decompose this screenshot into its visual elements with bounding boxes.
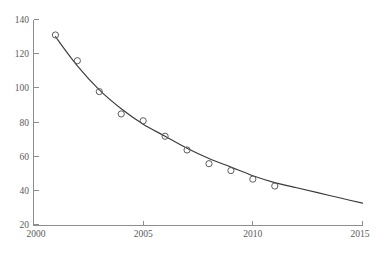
figure-caption <box>0 250 386 258</box>
y-tick-label: 120 <box>15 49 30 59</box>
data-point-marker <box>118 111 124 117</box>
data-point-marker <box>74 58 80 64</box>
scatter-plot: 140 120 100 80 60 40 20 2000 2005 2010 2… <box>0 0 386 258</box>
x-tick-label: 2015 <box>351 229 370 239</box>
fitted-curve <box>55 37 362 204</box>
data-point-marker <box>206 161 212 167</box>
y-tick-label: 140 <box>15 15 30 25</box>
data-point-marker <box>140 118 146 124</box>
y-tick-label: 40 <box>20 186 30 196</box>
x-axis-ticks <box>34 221 363 226</box>
data-point-marker <box>272 183 278 189</box>
chart-figure: 140 120 100 80 60 40 20 2000 2005 2010 2… <box>0 0 386 258</box>
y-tick-label: 100 <box>15 83 30 93</box>
x-tick-label: 2000 <box>27 229 46 239</box>
y-axis-ticks <box>34 20 39 225</box>
axis-lines <box>34 20 363 226</box>
x-tick-label: 2010 <box>243 229 262 239</box>
x-axis-tick-labels: 2000 2005 2010 2015 <box>27 229 370 239</box>
data-point-marker <box>250 176 256 182</box>
y-tick-label: 60 <box>20 152 30 162</box>
y-tick-label: 80 <box>20 118 30 128</box>
data-point-markers <box>52 32 278 189</box>
y-axis-tick-labels: 140 120 100 80 60 40 20 <box>15 15 30 230</box>
x-tick-label: 2005 <box>134 229 153 239</box>
data-point-marker <box>228 167 234 173</box>
